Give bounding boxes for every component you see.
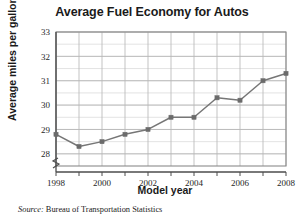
data-point [169,115,173,119]
data-point [146,127,150,131]
y-tick-label: 30 [41,100,51,110]
y-tick-labels: 282930313233 [41,27,51,159]
y-tick-label: 31 [41,76,50,86]
grid-vertical [56,32,286,166]
data-point [192,115,196,119]
y-tick-label: 29 [41,125,51,135]
source-text: Bureau of Transportation Statistics [46,205,163,214]
data-point [215,96,219,100]
chart-figure: Average Fuel Economy for Autos Average m… [0,0,304,224]
data-point [100,140,104,144]
data-point [123,132,127,136]
y-tick-label: 32 [41,52,50,62]
data-point [54,132,58,136]
source-prefix: Source: [18,205,44,214]
source-note: Source: Bureau of Transportation Statist… [18,205,162,214]
data-point [238,98,242,102]
data-point [261,79,265,83]
data-point [77,144,81,148]
x-axis-label: Model year [40,184,290,196]
data-point [284,71,288,75]
y-tick-label: 33 [41,27,51,37]
y-tick-label: 28 [41,149,51,159]
